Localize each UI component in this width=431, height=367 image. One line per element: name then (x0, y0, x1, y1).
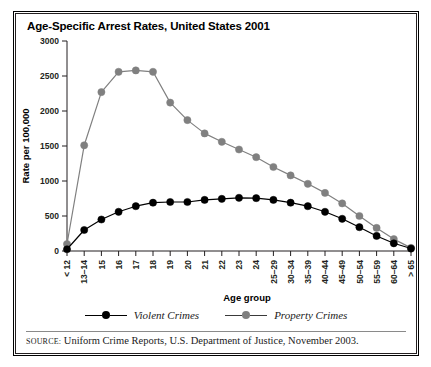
x-axis-tick-label: 50–54 (355, 260, 365, 284)
data-point (270, 163, 277, 170)
y-axis-tick-label: 3000 (40, 36, 59, 46)
legend-line-violent-2 (110, 315, 127, 316)
data-point (390, 240, 397, 247)
chart-plot-area: 050010001500200025003000Rate per 100,000… (15, 31, 417, 303)
data-point (132, 203, 139, 210)
legend-line-property (225, 315, 242, 316)
data-point (81, 142, 88, 149)
data-point (132, 67, 139, 74)
data-point (149, 68, 156, 75)
legend-line-property-2 (250, 315, 267, 316)
data-point (373, 224, 380, 231)
source-text: Uniform Crime Reports, U.S. Department o… (64, 335, 359, 346)
y-axis-tick-label: 0 (54, 246, 59, 256)
legend-marker-violent (102, 311, 110, 319)
data-point (184, 117, 191, 124)
x-axis-tick-label: 25–29 (269, 260, 279, 284)
chart-legend: Violent Crimes Property Crimes (15, 309, 417, 329)
x-axis-tick-label: 18 (148, 260, 158, 270)
x-axis-tick-label: 22 (217, 260, 227, 270)
x-axis-title: Age group (223, 292, 271, 303)
data-point (218, 195, 225, 202)
data-point (253, 195, 260, 202)
x-axis-tick-label: 40–44 (320, 260, 330, 284)
data-point (287, 172, 294, 179)
legend-label-violent: Violent Crimes (134, 309, 199, 321)
y-axis-tick-label: 2500 (40, 71, 59, 81)
data-point (167, 198, 174, 205)
data-point (339, 200, 346, 207)
data-point (270, 196, 277, 203)
y-axis-tick-label: 2000 (40, 106, 59, 116)
x-axis-tick-label: 16 (114, 260, 124, 270)
data-point (373, 232, 380, 239)
legend-marker-property (242, 311, 250, 319)
series-property-crimes (63, 67, 414, 252)
x-axis-tick-label: 17 (131, 260, 141, 270)
data-point (287, 199, 294, 206)
data-point (253, 154, 260, 161)
data-point (235, 194, 242, 201)
data-point (115, 68, 122, 75)
legend-label-property: Property Crimes (274, 309, 347, 321)
source-note: SOURCE: Uniform Crime Reports, U.S. Depa… (26, 335, 411, 346)
data-point (356, 212, 363, 219)
data-point (98, 216, 105, 223)
y-axis-tick-label: 1500 (40, 141, 59, 151)
legend-line-violent (85, 315, 102, 316)
x-axis-tick-label: 23 (234, 260, 244, 270)
data-point (184, 198, 191, 205)
x-axis-tick-label: 21 (200, 260, 210, 270)
source-divider (26, 331, 406, 332)
data-point (304, 180, 311, 187)
data-point (98, 89, 105, 96)
data-point (356, 224, 363, 231)
legend-item-violent-crimes: Violent Crimes (85, 309, 199, 321)
x-axis-tick-label: 13–14 (79, 260, 89, 284)
x-axis-tick-label: 35–39 (303, 260, 313, 284)
data-point (201, 130, 208, 137)
data-point (407, 245, 414, 252)
data-point (201, 196, 208, 203)
x-axis-tick-label: < 12 (62, 260, 72, 277)
data-point (81, 226, 88, 233)
data-point (304, 203, 311, 210)
x-axis-tick-label: 24 (251, 260, 261, 270)
x-axis-tick-label: 15 (97, 260, 107, 270)
x-axis-tick-label: 20 (183, 260, 193, 270)
x-axis-tick-label: > 65 (406, 260, 416, 277)
series-violent-crimes (63, 194, 414, 253)
data-point (235, 146, 242, 153)
x-axis-tick-label: 55–59 (372, 260, 382, 284)
data-point (115, 208, 122, 215)
line-chart: 050010001500200025003000Rate per 100,000… (15, 31, 417, 303)
x-axis-tick-label: 19 (165, 260, 175, 270)
legend-item-property-crimes: Property Crimes (225, 309, 347, 321)
x-axis-tick-label: 30–34 (286, 260, 296, 284)
y-axis-title: Rate per 100,000 (20, 109, 31, 184)
source-keyword: SOURCE: (26, 337, 61, 346)
data-point (339, 215, 346, 222)
data-point (321, 208, 328, 215)
data-point (63, 246, 70, 253)
y-axis-tick-label: 1000 (40, 176, 59, 186)
data-point (321, 189, 328, 196)
y-axis-tick-label: 500 (45, 211, 59, 221)
data-point (218, 138, 225, 145)
data-point (167, 99, 174, 106)
figure-content: Age-Specific Arrest Rates, United States… (15, 13, 417, 354)
figure-container: Age-Specific Arrest Rates, United States… (0, 0, 431, 367)
x-axis-tick-label: 60–64 (389, 260, 399, 284)
data-point (149, 199, 156, 206)
x-axis-tick-label: 45–49 (337, 260, 347, 284)
